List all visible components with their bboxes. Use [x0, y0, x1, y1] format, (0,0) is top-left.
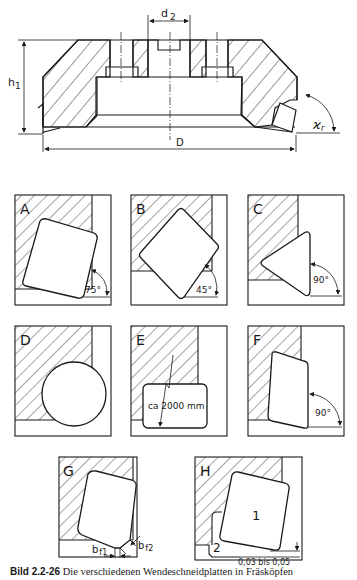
cutter-diagram: d2 h1 D ϰr A 75° B 45° C 90°	[0, 0, 357, 580]
panel-f-angle: 90°	[315, 408, 331, 418]
panel-b-angle: 45°	[196, 285, 212, 295]
panel-d-letter: D	[20, 332, 31, 348]
figure-caption: Bild 2.2-26 Die verschiedenen Wendeschne…	[10, 566, 355, 577]
panel-a-angle: 75°	[85, 285, 101, 295]
panel-a-letter: A	[20, 201, 30, 217]
panel-f-letter: F	[253, 332, 261, 348]
caption-number: Bild 2.2-26	[10, 566, 60, 577]
panel-c-angle: 90°	[313, 275, 329, 285]
caption-text: Die verschiedenen Wendeschneidplatten in…	[63, 566, 293, 577]
kappa-r-label: ϰr	[312, 118, 325, 133]
d2-label: d2	[161, 7, 176, 22]
panel-c-letter: C	[253, 201, 263, 217]
panel-g-bf2-label: bf2	[138, 540, 153, 553]
panel-h-letter: H	[200, 463, 211, 479]
panel-h-main-insert-label: 1	[252, 508, 260, 523]
panel-e-annotation: ca 2000 mm	[148, 401, 205, 411]
panel-e	[131, 326, 227, 436]
panel-h-wiper-insert-label: 2	[213, 541, 221, 555]
panel-g-letter: G	[63, 463, 74, 479]
panel-h	[195, 457, 302, 560]
panel-b-letter: B	[136, 201, 146, 217]
panel-g-bf1-label: bf1	[92, 544, 107, 557]
cutter-section	[38, 40, 297, 133]
panel-e-letter: E	[136, 332, 145, 348]
h1-label: h1	[8, 76, 21, 91]
panel-f	[248, 326, 344, 436]
D-label: D	[176, 137, 184, 148]
